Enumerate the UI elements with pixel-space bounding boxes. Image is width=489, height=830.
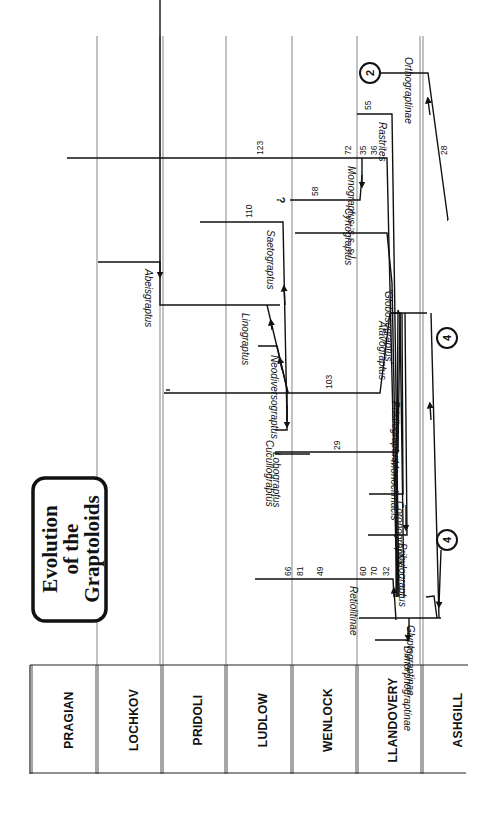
label-abeisgraptus: Abeisgraptus xyxy=(143,268,154,327)
circle-marker-2: 2 xyxy=(360,63,380,83)
label-pristiograptus: Pristiograptus xyxy=(390,401,401,462)
num-60: 60 xyxy=(358,566,368,576)
stage-ashgill: ASHGILL xyxy=(451,693,465,748)
graptoloid-evolution-diagram: PRAGIAN LOCHKOV PRIDOLI LUDLOW WENLOCK L… xyxy=(0,0,489,830)
stage-ludlow: LUDLOW xyxy=(256,692,270,747)
stage-wenlock: WENLOCK xyxy=(321,688,335,752)
num-28: 28 xyxy=(439,145,449,155)
num-70: 70 xyxy=(369,566,379,576)
num-29: 29 xyxy=(332,440,342,450)
circle-marker-4-upper: 4 xyxy=(437,328,457,348)
stage-pragian: PRAGIAN xyxy=(62,691,76,748)
svg-text:2: 2 xyxy=(364,70,376,76)
question-mark: ? xyxy=(275,197,287,204)
label-orthograptinae: Orthograptinae xyxy=(403,57,414,124)
label-saetograptus: Saetograptus xyxy=(265,230,276,290)
num-36: 36 xyxy=(369,145,379,155)
title-box: Evolution of the Graptoloids xyxy=(33,478,106,621)
svg-text:4: 4 xyxy=(441,334,453,341)
num-32: 32 xyxy=(381,566,391,576)
num-103: 103 xyxy=(324,375,334,389)
num-66: 66 xyxy=(283,566,293,576)
num-72: 72 xyxy=(343,145,353,155)
num-123: 123 xyxy=(255,141,265,155)
label-neodiversograptus: Neodiversograptus xyxy=(269,355,280,439)
title-line-3: Graptoloids xyxy=(80,495,104,602)
circle-marker-4-lower: 4 xyxy=(437,530,457,550)
label-linograptus: Linograptus xyxy=(240,313,251,365)
num-110: 110 xyxy=(244,204,254,218)
num-81: 81 xyxy=(295,566,305,576)
num-58: 58 xyxy=(310,186,320,196)
num-55: 55 xyxy=(363,100,373,110)
svg-text:4: 4 xyxy=(441,536,453,543)
label-retiolitinae: Retiolitinae xyxy=(348,586,359,636)
label-pribylograptus: Pribylograptus xyxy=(397,543,408,607)
stage-lochkov: LOCHKOV xyxy=(127,689,141,751)
num-35: 35 xyxy=(358,145,368,155)
label-atavograptus: Atavograptus xyxy=(377,320,388,380)
num-49: 49 xyxy=(315,566,325,576)
label-lobograptus: Lobograptus xyxy=(271,452,282,508)
stage-pridoli: PRIDOLI xyxy=(191,695,205,746)
stage-llandovery: LLANDOVERY xyxy=(386,677,400,762)
label-dimorphograptinae: Dimorphograptinae xyxy=(402,646,413,731)
label-cyrtograptus: Cyrtograptus xyxy=(343,208,354,265)
